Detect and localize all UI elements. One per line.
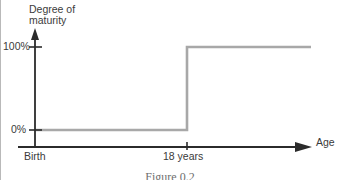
y-axis-title-line2: maturity [29,15,75,26]
x-axis-arrowhead [295,142,312,152]
y-tick-label-0: 0% [11,124,26,135]
y-axis-arrowhead [31,28,39,40]
x-tick-label-birth: Birth [24,151,46,162]
x-tick-label-18-years: 18 years [163,151,203,162]
figure-caption: Figure 0.2 [1,170,338,180]
figure-container: Degree of maturity 100% 0% Birth 18 year… [0,0,338,180]
y-axis-title: Degree of maturity [29,4,75,26]
x-axis-title: Age [316,137,335,148]
maturity-step-line [35,47,311,130]
y-tick-label-100: 100% [3,41,30,52]
